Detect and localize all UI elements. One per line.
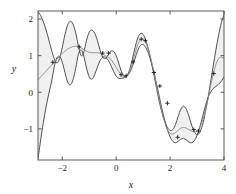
y-tick-label: 1 <box>29 51 34 61</box>
data-point <box>152 70 156 74</box>
gaussian-process-plot: −2024−1012 x y <box>0 0 236 194</box>
data-point <box>158 84 162 88</box>
y-tick-label: −1 <box>23 124 33 134</box>
y-axis-label: y <box>11 63 17 74</box>
x-axis-label: x <box>128 179 134 190</box>
x-tick-label: 4 <box>222 163 227 173</box>
chart-figure: −2024−1012 x y <box>0 0 236 194</box>
x-tick-label: 2 <box>168 163 173 173</box>
y-tick-label: 0 <box>29 88 34 98</box>
y-tick-label: 2 <box>29 14 34 24</box>
tick-group: −2024−1012 <box>23 11 226 173</box>
x-tick-label: −2 <box>57 163 67 173</box>
x-tick-label: 0 <box>114 163 119 173</box>
data-point <box>165 101 169 105</box>
